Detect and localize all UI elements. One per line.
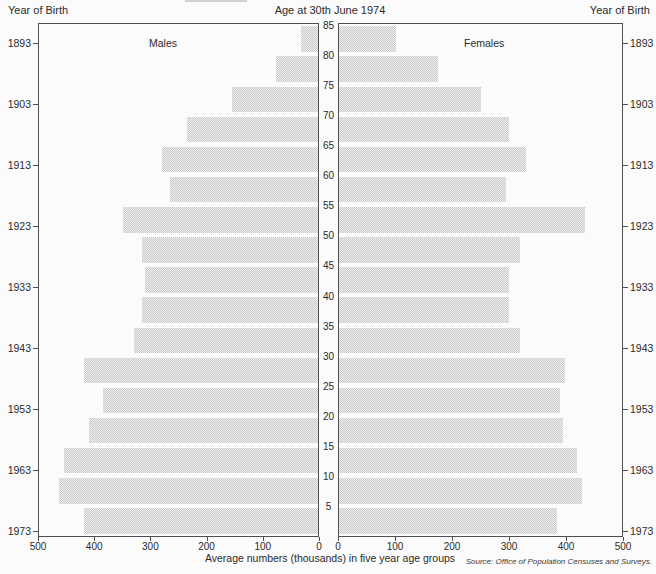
year-tick-label-right: 1923	[630, 220, 653, 233]
age-tick-label: 60	[319, 171, 338, 181]
bar-males-35-39	[142, 297, 318, 323]
year-tick-label-right: 1903	[630, 98, 653, 111]
year-tick-left	[33, 226, 38, 227]
value-tick-label: 0	[323, 541, 353, 552]
value-tick-label: 200	[192, 541, 222, 552]
value-tick-label: 200	[437, 541, 467, 552]
bar-females-30-34	[339, 328, 520, 354]
year-tick-left	[33, 531, 38, 532]
bar-females-70-74	[339, 87, 481, 113]
year-tick-label-right: 1893	[630, 37, 653, 50]
age-tick-label: 35	[319, 322, 338, 332]
year-tick-right	[623, 348, 628, 349]
bar-females-25-29	[339, 358, 565, 384]
chart-title: Age at 30th June 1974	[233, 4, 427, 16]
bar-males-50-54	[123, 207, 318, 233]
year-tick-label-left: 1953	[0, 403, 31, 416]
females-panel: Females	[338, 23, 623, 537]
age-tick-label: 45	[319, 261, 338, 271]
age-tick-label: 30	[319, 352, 338, 362]
year-tick-left	[33, 104, 38, 105]
bar-males-45-49	[142, 237, 318, 263]
bar-males-55-59	[170, 177, 318, 203]
bar-males-60-64	[162, 147, 318, 173]
bar-females-15-19	[339, 418, 563, 444]
age-tick-label: 50	[319, 231, 338, 241]
value-tick-label: 100	[248, 541, 278, 552]
scan-artifact	[185, 0, 247, 2]
year-tick-label-left: 1913	[0, 159, 31, 172]
age-tick-label: 75	[319, 81, 338, 91]
value-tick-label: 500	[23, 541, 53, 552]
bar-males-65-69	[187, 117, 318, 143]
age-tick-label: 65	[319, 141, 338, 151]
bar-females-5-9	[339, 478, 582, 504]
bar-females-55-59	[339, 177, 506, 203]
left-axis-title: Year of Birth	[8, 4, 68, 16]
bar-females-10-14	[339, 448, 577, 474]
year-tick-label-right: 1973	[630, 525, 653, 538]
value-tick-label: 400	[551, 541, 581, 552]
year-tick-right	[623, 409, 628, 410]
bar-females-75-79	[339, 56, 438, 82]
population-pyramid-figure: Year of Birth Age at 30th June 1974 Year…	[0, 0, 656, 574]
bar-males-0-4	[84, 508, 318, 534]
males-panel: Males	[38, 23, 319, 537]
right-axis-title: Year of Birth	[590, 4, 650, 16]
bar-females-45-49	[339, 237, 520, 263]
age-tick-label: 25	[319, 382, 338, 392]
bar-females-65-69	[339, 117, 509, 143]
value-tick-label: 300	[494, 541, 524, 552]
bar-females-80-84	[339, 26, 396, 52]
age-tick-label: 20	[319, 412, 338, 422]
age-tick-label: 55	[319, 201, 338, 211]
year-tick-left	[33, 348, 38, 349]
year-tick-right	[623, 470, 628, 471]
bar-males-25-29	[84, 358, 318, 384]
bar-males-5-9	[59, 478, 319, 504]
value-tick-label: 400	[79, 541, 109, 552]
year-tick-right	[623, 226, 628, 227]
bar-males-70-74	[232, 87, 319, 113]
year-tick-label-left: 1933	[0, 281, 31, 294]
year-tick-label-right: 1953	[630, 403, 653, 416]
year-tick-left	[33, 470, 38, 471]
age-tick-label: 40	[319, 292, 338, 302]
year-tick-right	[623, 531, 628, 532]
value-tick-label: 100	[380, 541, 410, 552]
year-tick-left	[33, 165, 38, 166]
females-label: Females	[464, 37, 504, 49]
bar-females-35-39	[339, 297, 509, 323]
age-axis: 510152025303540455055606570758085	[319, 23, 338, 537]
age-tick-label: 70	[319, 111, 338, 121]
bar-males-20-24	[103, 388, 318, 414]
year-tick-label-right: 1913	[630, 159, 653, 172]
year-tick-right	[623, 104, 628, 105]
year-tick-label-left: 1973	[0, 525, 31, 538]
year-tick-label-right: 1933	[630, 281, 653, 294]
bar-males-40-44	[145, 267, 318, 293]
bar-females-60-64	[339, 147, 526, 173]
year-tick-label-left: 1943	[0, 342, 31, 355]
year-tick-label-left: 1893	[0, 37, 31, 50]
value-tick-label: 500	[608, 541, 638, 552]
bar-females-50-54	[339, 207, 585, 233]
age-tick-label: 5	[319, 502, 338, 512]
year-tick-label-right: 1963	[630, 464, 653, 477]
age-tick-label: 85	[319, 21, 338, 31]
bar-males-15-19	[89, 418, 318, 444]
age-tick-label: 15	[319, 442, 338, 452]
bar-males-30-34	[134, 328, 318, 354]
year-tick-left	[33, 43, 38, 44]
bar-females-40-44	[339, 267, 509, 293]
year-tick-label-left: 1923	[0, 220, 31, 233]
age-tick-label: 80	[319, 51, 338, 61]
bar-females-20-24	[339, 388, 560, 414]
bar-males-80-84	[301, 26, 318, 52]
year-tick-label-right: 1943	[630, 342, 653, 355]
year-tick-right	[623, 43, 628, 44]
year-tick-right	[623, 165, 628, 166]
males-label: Males	[149, 37, 177, 49]
bar-males-10-14	[64, 448, 318, 474]
year-tick-left	[33, 409, 38, 410]
